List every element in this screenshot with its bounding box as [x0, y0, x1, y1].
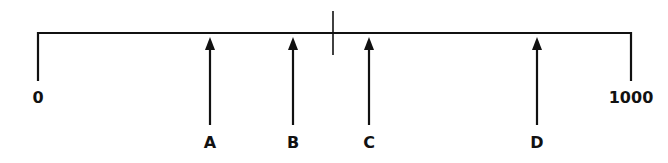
arrow-label: A — [204, 133, 217, 152]
arrow-label: C — [363, 133, 375, 152]
arrowhead-icon — [288, 37, 298, 50]
scale-bracket — [38, 33, 631, 81]
arrow-b: B — [287, 37, 299, 152]
scale-max-label: 1000 — [609, 88, 654, 107]
arrow-group: ABCD — [204, 37, 544, 152]
number-line-diagram: 0 1000 ABCD — [0, 0, 668, 163]
arrow-a: A — [204, 37, 217, 152]
scale-line — [38, 33, 631, 81]
scale-min-label: 0 — [32, 88, 43, 107]
arrow-d: D — [530, 37, 543, 152]
arrowhead-icon — [532, 37, 542, 50]
arrowhead-icon — [205, 37, 215, 50]
arrow-c: C — [363, 37, 375, 152]
arrowhead-icon — [364, 37, 374, 50]
arrow-label: B — [287, 133, 299, 152]
arrow-label: D — [530, 133, 543, 152]
